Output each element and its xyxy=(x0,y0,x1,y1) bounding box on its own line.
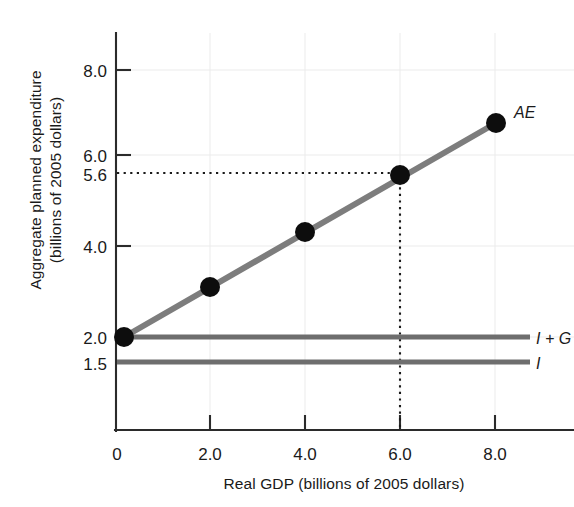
aggregate-planned-expenditure-chart: I I + G AE 8.0 6.0 5.6 4.0 2.0 1.5 0 2.0… xyxy=(0,0,574,507)
i-plus-g-line-label: I + G xyxy=(536,330,571,347)
x-tick-label-0: 0 xyxy=(112,445,121,464)
ae-line-label: AE xyxy=(513,104,536,121)
x-tick-label-8: 8.0 xyxy=(483,445,507,464)
y-tick-label-5-6: 5.6 xyxy=(83,166,107,185)
ae-point-0 xyxy=(114,327,134,347)
ae-point-6 xyxy=(390,165,410,185)
y-axis-title-line-1: Aggregate planned expenditure xyxy=(27,70,44,289)
y-tick-label-8: 8.0 xyxy=(83,62,107,81)
i-line-label: I xyxy=(536,355,541,372)
x-tick-label-6: 6.0 xyxy=(388,445,412,464)
y-tick-label-1-5: 1.5 xyxy=(83,355,107,374)
y-tick-label-6: 6.0 xyxy=(83,147,107,166)
y-tick-label-4: 4.0 xyxy=(83,238,107,257)
x-tick-label-4: 4.0 xyxy=(293,445,317,464)
x-tick-label-2: 2.0 xyxy=(198,445,222,464)
y-tick-label-2: 2.0 xyxy=(83,329,107,348)
ae-point-8 xyxy=(486,113,506,133)
y-axis-title-line-2: (billions of 2005 dollars) xyxy=(47,97,64,263)
ae-point-4 xyxy=(295,222,315,242)
x-axis-title: Real GDP (billions of 2005 dollars) xyxy=(224,475,465,492)
ae-point-2 xyxy=(200,277,220,297)
